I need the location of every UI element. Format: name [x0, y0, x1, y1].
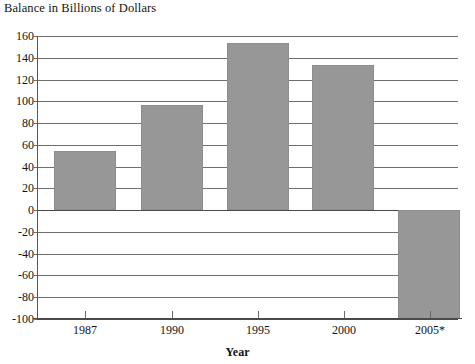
y-axis-tick-label: 80 — [1, 117, 34, 129]
y-axis-tick-label: 60 — [1, 139, 34, 151]
x-axis-tick-mark — [172, 311, 173, 318]
y-axis-tick-label: 20 — [1, 182, 34, 194]
x-axis-tick-label: 1987 — [73, 324, 97, 337]
gridline — [37, 319, 458, 320]
plot-area — [37, 36, 458, 319]
x-axis-tick-mark — [258, 311, 259, 318]
y-axis-tick-label: 100 — [1, 95, 34, 107]
y-axis-tick-label: -40 — [1, 248, 34, 260]
gridline — [37, 210, 458, 211]
bar-1995 — [227, 43, 289, 211]
x-axis-tick-label: 2005* — [415, 324, 445, 337]
y-axis-tick-label: -20 — [1, 226, 34, 238]
x-axis-tick-label: 1990 — [160, 324, 184, 337]
x-axis-tick-mark — [344, 311, 345, 318]
gridline — [37, 297, 458, 298]
x-axis-line — [33, 318, 462, 319]
x-axis-tick-mark — [85, 311, 86, 318]
y-axis-tick-label: -60 — [1, 269, 34, 281]
bar-1987 — [54, 151, 116, 210]
y-axis-tick-label: 120 — [1, 74, 34, 86]
bar-2005 — [398, 210, 460, 319]
y-axis-spine — [37, 36, 38, 319]
y-axis-tick-label: -80 — [1, 291, 34, 303]
gridline — [37, 36, 458, 37]
y-axis-tick-labels: 160140120100806040200-20-40-60-80-100 — [0, 36, 34, 319]
y-axis-tick-label: 0 — [1, 204, 34, 216]
x-axis-tick-label: 1995 — [246, 324, 270, 337]
x-axis-tick-mark — [430, 311, 431, 318]
y-axis-tick-label: -100 — [1, 313, 34, 325]
y-axis-tick-label: 140 — [1, 52, 34, 64]
y-axis-tick-label: 40 — [1, 161, 34, 173]
x-axis-tick-label: 2000 — [332, 324, 356, 337]
gridline — [37, 254, 458, 255]
gridline — [37, 232, 458, 233]
x-axis-title: Year — [0, 345, 475, 360]
chart-title: Balance in Billions of Dollars — [4, 1, 156, 16]
bar-chart: Balance in Billions of Dollars 160140120… — [0, 0, 475, 364]
y-axis-tick-label: 160 — [1, 30, 34, 42]
bar-2000 — [312, 65, 374, 210]
bar-1990 — [141, 105, 203, 211]
gridline — [37, 275, 458, 276]
